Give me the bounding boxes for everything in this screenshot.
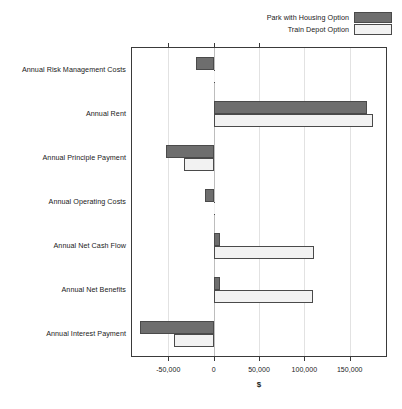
y-axis-category-label: Annual Interest Payment [0,329,126,338]
bar [214,233,220,246]
bar [214,290,314,303]
x-axis-tick-label: 50,000 [248,365,270,374]
bar [214,202,215,215]
x-axis-tick [350,357,351,361]
x-axis-title: $ [0,380,402,390]
gridline [259,48,260,356]
x-axis-tick [304,357,305,361]
x-axis-tick [168,357,169,361]
chart-legend: Park with Housing Option Train Depot Opt… [232,11,392,37]
x-axis-tick-top [168,43,169,47]
legend-label: Park with Housing Option [267,13,349,22]
gridline [304,48,305,356]
legend-label: Train Depot Option [288,25,349,34]
bar [214,70,215,83]
gridline [168,48,169,356]
x-axis-tick-label: 100,000 [292,365,318,374]
plot-area [131,47,387,357]
x-axis-tick-label: 0 [212,365,216,374]
gridline [350,48,351,356]
bar [214,277,220,290]
legend-swatch-light [354,24,392,35]
bar [140,321,213,334]
bar [196,57,213,70]
bar [214,246,315,259]
x-axis-tick-top [259,43,260,47]
y-axis-category-label: Annual Principle Payment [0,153,126,162]
y-axis-category-label: Annual Net Cash Flow [0,241,126,250]
y-axis-category-label: Annual Risk Management Costs [0,65,126,74]
x-axis-tick-label: -50,000 [156,365,180,374]
bar [205,189,214,202]
x-axis-tick [214,357,215,361]
y-axis-category-label: Annual Rent [0,109,126,118]
legend-swatch-dark [354,12,392,23]
bar [174,334,214,347]
x-axis-tick-top [214,43,215,47]
bar [214,101,367,114]
bar-chart: Park with Housing Option Train Depot Opt… [0,0,402,409]
x-axis-title-text: $ [257,380,261,390]
x-axis-tick-label: 150,000 [337,365,363,374]
y-axis-category-label: Annual Operating Costs [0,197,126,206]
bar [214,114,374,127]
legend-item-train-depot-option: Train Depot Option [288,23,392,35]
legend-item-park-with-housing-option: Park with Housing Option [267,11,392,23]
y-axis-category-label: Annual Net Benefits [0,285,126,294]
bar [184,158,214,171]
x-axis-tick [259,357,260,361]
bar [166,145,214,158]
